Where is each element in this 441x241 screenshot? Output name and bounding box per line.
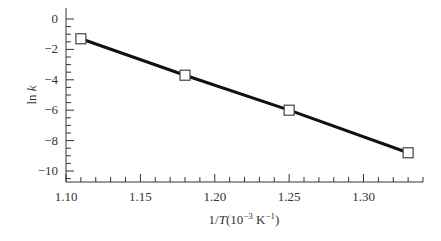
data-point-marker [180,70,190,80]
x-tick-label: 1.25 [278,189,301,204]
data-point-marker [76,34,86,44]
x-axis-label: 1/T(10−3 K−1) [209,211,280,227]
y-axis-label: ln k [24,85,39,104]
y-tick-label: 0 [52,11,59,26]
x-tick-label: 1.10 [55,189,78,204]
y-tick-label: −10 [38,163,58,178]
y-tick-label: −4 [44,72,58,87]
data-line [81,39,408,153]
y-tick-label: −8 [44,133,58,148]
x-tick-label: 1.15 [129,189,152,204]
data-point-marker [403,148,413,158]
y-tick-label: −6 [44,102,58,117]
x-tick-label: 1.20 [203,189,226,204]
x-tick-label: 1.30 [352,189,375,204]
arrhenius-chart: 0−2−4−6−8−101.101.151.201.251.301/T(10−3… [0,0,441,241]
y-tick-label: −2 [44,41,58,56]
data-point-marker [284,105,294,115]
